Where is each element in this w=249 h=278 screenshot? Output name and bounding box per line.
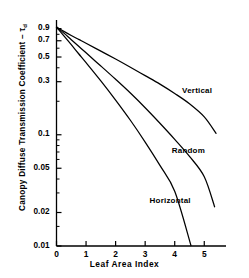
y-tick-label: 0.05 — [34, 163, 50, 172]
x-tick-label: 1 — [76, 249, 96, 259]
x-tick-label: 4 — [165, 249, 185, 259]
curve-label-vertical: Vertical — [182, 86, 212, 95]
curve-label-random: Random — [172, 146, 205, 155]
x-tick-label: 0 — [47, 249, 67, 259]
x-tick-label: 3 — [135, 249, 155, 259]
curve-vertical — [57, 27, 217, 133]
y-axis-title-text: Canopy Diffuse Transmission Coefficient … — [18, 28, 27, 211]
x-tick-label: 5 — [194, 249, 214, 259]
curve-horizontal — [57, 27, 191, 245]
curve-label-horizontal: Horizontal — [150, 196, 191, 205]
x-tick-label: 2 — [106, 249, 126, 259]
y-tick-label: 0.5 — [38, 52, 49, 61]
y-axis-title: Canopy Diffuse Transmission Coefficient … — [18, 12, 29, 222]
x-axis-title: Leaf Area Index — [0, 259, 249, 269]
chart-figure: Canopy Diffuse Transmission Coefficient … — [0, 0, 249, 278]
curve-random — [57, 27, 215, 207]
y-tick-label: 0.3 — [38, 76, 49, 85]
y-tick-label: 0.9 — [38, 23, 49, 32]
y-tick-label: 0.1 — [38, 129, 49, 138]
y-tick-label: 0.7 — [38, 35, 49, 44]
axes-group — [57, 20, 227, 246]
curves-group — [57, 27, 217, 245]
y-tick-label: 0.02 — [34, 207, 50, 216]
y-axis-title-subscript: d — [22, 24, 28, 28]
